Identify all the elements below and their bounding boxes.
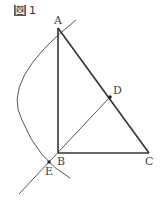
point-E	[48, 161, 51, 164]
label-B: B	[57, 155, 65, 168]
label-A: A	[53, 14, 63, 27]
geometry-figure: A B C D E	[0, 0, 164, 207]
label-E: E	[45, 165, 53, 178]
compass-arc	[17, 20, 76, 178]
segment-AC	[58, 28, 149, 153]
label-D: D	[113, 84, 122, 97]
line-DE	[19, 97, 110, 194]
label-C: C	[145, 155, 153, 168]
point-D	[108, 95, 112, 99]
